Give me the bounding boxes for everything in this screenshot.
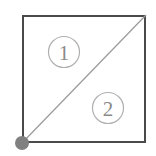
figure-diagram: 1 2 [0,0,156,156]
figure-canvas: 1 2 [0,0,156,156]
vertex-dot [15,136,29,150]
region-label-2-text: 2 [103,97,114,121]
diagonal-line [22,15,146,143]
region-label-1-text: 1 [59,41,70,65]
